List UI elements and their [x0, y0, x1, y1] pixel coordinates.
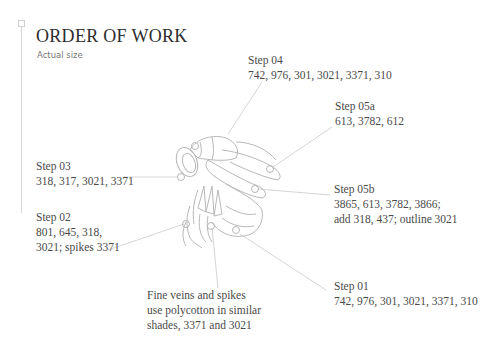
- step-03-callout: Step 03 318, 317, 3021, 3371: [36, 159, 134, 189]
- leader-lines: [108, 82, 332, 290]
- step-02-callout: Step 02 801, 645, 318, 3021; spikes 3371: [36, 210, 120, 255]
- step-02-threads-line1: 801, 645, 318,: [36, 225, 120, 240]
- step-04-callout: Step 04 742, 976, 301, 3021, 3371, 310: [248, 53, 392, 83]
- step-02-threads-line2: 3021; spikes 3371: [36, 240, 120, 255]
- step-05b-callout: Step 05b 3865, 613, 3782, 3866; add 318,…: [334, 182, 458, 227]
- step-05b-title: Step 05b: [334, 182, 458, 197]
- leader-note: [212, 228, 218, 288]
- note-line3: shades, 3371 and 3021: [147, 318, 261, 333]
- leader-step01: [240, 234, 326, 290]
- note-line1: Fine veins and spikes: [147, 288, 261, 303]
- step-01-callout: Step 01 742, 976, 301, 3021, 3371, 310: [334, 279, 478, 309]
- step-05b-threads-line1: 3865, 613, 3782, 3866;: [334, 197, 458, 212]
- step-03-title: Step 03: [36, 159, 134, 174]
- insect-drawing: [172, 137, 280, 249]
- step-01-title: Step 01: [334, 279, 478, 294]
- step-05b-threads-line2: add 318, 437; outline 3021: [334, 212, 458, 227]
- step-04-threads: 742, 976, 301, 3021, 3371, 310: [248, 68, 392, 83]
- step-03-threads: 318, 317, 3021, 3371: [36, 174, 134, 189]
- step-05a-title: Step 05a: [335, 99, 404, 114]
- step-05a-threads: 613, 3782, 612: [335, 114, 404, 129]
- leader-step05b: [258, 189, 330, 195]
- step-01-threads: 742, 976, 301, 3021, 3371, 310: [334, 294, 478, 309]
- step-02-title: Step 02: [36, 210, 120, 225]
- step-05a-callout: Step 05a 613, 3782, 612: [335, 99, 404, 129]
- step-04-title: Step 04: [248, 53, 392, 68]
- leader-step05a: [273, 127, 332, 167]
- note-line2: use polycotton in similar: [147, 303, 261, 318]
- fine-veins-note: Fine veins and spikes use polycotton in …: [147, 288, 261, 333]
- leader-step04: [228, 82, 262, 134]
